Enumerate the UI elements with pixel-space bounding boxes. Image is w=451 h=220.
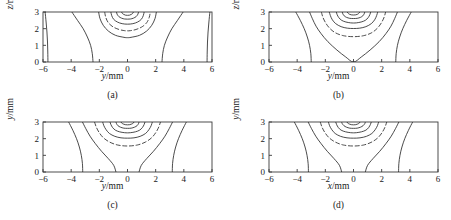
contour-line — [172, 122, 186, 172]
panel-c-y-axis-label: y/mm — [6, 86, 16, 132]
contour-line — [321, 12, 385, 37]
contour-line — [111, 12, 144, 24]
panel-b-x-axis-label: y/mm — [226, 72, 451, 82]
svg-text:0: 0 — [35, 167, 40, 177]
contour-line — [320, 122, 386, 146]
contour-line — [296, 12, 311, 62]
contour-line — [336, 12, 370, 23]
svg-text:0: 0 — [261, 57, 266, 67]
contour-line — [162, 12, 183, 62]
panel-d-y-axis-label: y/mm — [232, 86, 242, 132]
contour-line — [69, 122, 83, 172]
svg-text:0: 0 — [35, 57, 40, 67]
svg-text:3: 3 — [261, 7, 266, 17]
panel-b-y-axis-label: z/mm — [232, 0, 242, 22]
contour-line — [207, 12, 210, 62]
panel-c: −6−4−202460123 y/mm y/mm (c) — [0, 110, 225, 220]
svg-text:1: 1 — [261, 41, 266, 51]
svg-text:3: 3 — [35, 117, 40, 127]
panel-c-caption: (c) — [0, 200, 225, 210]
contour-line — [110, 122, 145, 133]
panel-d-x-axis-label: x/mm — [226, 182, 451, 192]
contour-line — [399, 122, 413, 172]
contour-line — [396, 12, 411, 62]
contour-line — [122, 12, 134, 15]
contour-figure: −6−4−202460123 z/mm y/mm (a) −6−4−202460… — [0, 0, 451, 220]
contour-line — [72, 12, 93, 62]
svg-text:0: 0 — [261, 167, 266, 177]
panel-a: −6−4−202460123 z/mm y/mm (a) — [0, 0, 225, 110]
panel-a-x-axis-label: y/mm — [0, 72, 225, 82]
panel-a-y-axis-label: z/mm — [6, 0, 16, 22]
svg-text:2: 2 — [261, 24, 266, 34]
panel-a-caption: (a) — [0, 90, 225, 100]
contour-line — [82, 122, 116, 172]
svg-text:1: 1 — [261, 151, 266, 161]
contour-line — [99, 12, 157, 38]
contour-line — [310, 12, 398, 62]
svg-text:1: 1 — [35, 41, 40, 51]
contour-line — [294, 122, 308, 172]
contour-line — [45, 12, 48, 62]
contour-line — [336, 122, 371, 133]
panel-b-caption: (b) — [226, 90, 451, 100]
contour-line — [139, 122, 173, 172]
svg-text:3: 3 — [35, 7, 40, 17]
svg-text:3: 3 — [261, 117, 266, 127]
panel-c-x-axis-label: y/mm — [0, 182, 225, 192]
svg-text:2: 2 — [35, 134, 40, 144]
contour-line — [365, 122, 399, 172]
svg-text:1: 1 — [35, 151, 40, 161]
panel-d-caption: (d) — [226, 200, 451, 210]
panel-b: −6−4−202460123 z/mm y/mm (b) — [226, 0, 451, 110]
panel-d: −6−4−202460123 y/mm x/mm (d) — [226, 110, 451, 220]
svg-text:2: 2 — [35, 24, 40, 34]
contour-line — [329, 12, 377, 29]
contour-line — [95, 122, 161, 146]
contour-line — [308, 122, 342, 172]
svg-text:2: 2 — [261, 134, 266, 144]
